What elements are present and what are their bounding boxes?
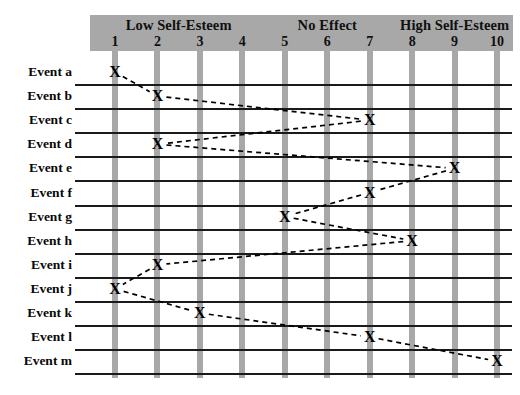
row-label-event-b: Event b [0,88,72,104]
row-rule [75,205,512,207]
marker-event-g: X [279,209,291,225]
row-label-event-c: Event c [0,112,72,128]
row-rule [75,108,512,110]
axis-number-10: 10 [477,34,517,50]
marker-event-i: X [152,257,164,273]
marker-event-l: X [364,329,376,345]
axis-number-6: 6 [307,34,347,50]
row-rule [75,229,512,231]
row-rule [75,180,512,182]
axis-number-1: 1 [95,34,135,50]
row-label-event-k: Event k [0,305,72,321]
connector-lines [0,0,520,395]
row-rule [75,132,512,134]
row-rule [75,349,512,351]
marker-event-j: X [109,281,121,297]
row-label-event-g: Event g [0,209,72,225]
zone-label-high-self-esteem: High Self-Esteem [365,17,520,34]
marker-event-k: X [194,305,206,321]
column-bar-8 [409,51,415,378]
axis-number-2: 2 [137,34,177,50]
self-esteem-event-chart: Low Self-Esteem No Effect High Self-Este… [0,0,520,395]
row-rule [75,277,512,279]
column-bar-6 [324,51,330,378]
row-label-event-e: Event e [0,160,72,176]
marker-event-f: X [364,185,376,201]
axis-number-5: 5 [265,34,305,50]
axis-number-4: 4 [222,34,262,50]
row-label-event-d: Event d [0,136,72,152]
axis-number-7: 7 [350,34,390,50]
row-rule [75,373,512,375]
row-label-event-l: Event l [0,329,72,345]
row-rule [75,84,512,86]
row-rule [75,156,512,158]
axis-number-9: 9 [435,34,475,50]
column-bar-10 [494,51,500,378]
row-rule [75,301,512,303]
marker-event-e: X [449,160,461,176]
axis-number-3: 3 [180,34,220,50]
column-bar-9 [452,51,458,378]
marker-event-c: X [364,112,376,128]
row-label-event-m: Event m [0,353,72,369]
row-label-event-i: Event i [0,257,72,273]
column-bar-3 [197,51,203,378]
row-label-event-h: Event h [0,233,72,249]
marker-event-m: X [491,353,503,369]
row-rule [75,253,512,255]
column-bar-4 [239,51,245,378]
row-label-event-f: Event f [0,185,72,201]
row-label-event-j: Event j [0,281,72,297]
marker-event-a: X [109,64,121,80]
marker-event-d: X [152,136,164,152]
axis-number-8: 8 [392,34,432,50]
column-bar-1 [112,51,118,378]
marker-event-b: X [152,88,164,104]
row-rule [75,325,512,327]
marker-event-h: X [406,233,418,249]
row-label-event-a: Event a [0,64,72,80]
